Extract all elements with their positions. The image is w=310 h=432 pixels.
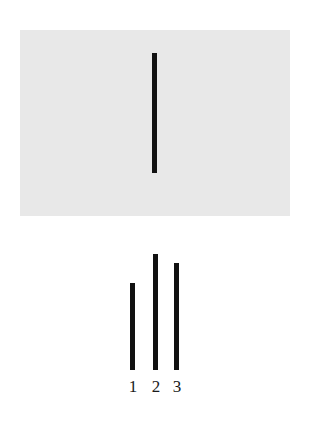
comparison-line-label-3: 3 — [169, 378, 185, 396]
comparison-line-label-1: 1 — [125, 378, 141, 396]
comparison-line-3 — [174, 263, 179, 370]
comparison-line-label-2: 2 — [148, 378, 164, 396]
standard-line — [152, 53, 157, 173]
comparison-line-1 — [130, 283, 135, 370]
comparison-line-2 — [153, 254, 158, 370]
line-judgment-stimulus: 1 2 3 — [0, 0, 310, 432]
